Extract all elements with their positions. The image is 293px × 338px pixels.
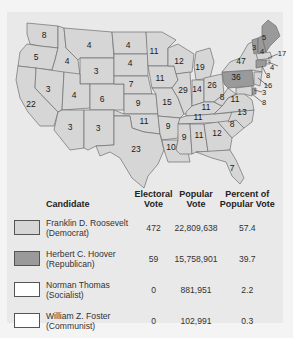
label-ok: 11	[140, 116, 149, 126]
candidate-name: Herbert C. Hoover	[46, 249, 116, 259]
label-ia: 11	[156, 73, 165, 83]
legend-swatch-republican	[14, 251, 40, 266]
label-tx: 23	[131, 144, 141, 154]
label-al: 11	[195, 130, 204, 140]
label-wy: 3	[94, 66, 99, 76]
popular-vote: 15,758,901	[173, 243, 218, 274]
legend-swatch-democrat	[14, 220, 40, 235]
candidate-name: William Z. Foster	[46, 311, 110, 321]
label-az: 3	[68, 122, 73, 132]
label-mi: 19	[195, 62, 205, 72]
label-nd: 4	[126, 40, 131, 50]
state-fl	[196, 150, 244, 184]
table-header-row: Candidate ElectoralVote PopularVote Perc…	[14, 189, 276, 212]
label-mn: 11	[150, 46, 159, 56]
state-ks	[124, 94, 158, 114]
label-nm: 3	[96, 123, 101, 133]
table-row: Herbert C. Hoover(Republican) 59 15,758,…	[14, 243, 276, 274]
label-wi: 12	[174, 56, 184, 66]
label-sd: 4	[128, 58, 133, 68]
us-electoral-map: 8 5 22 4 3 4 3 4 6 3 3 4 4 7 9 11 23 11 …	[0, 0, 293, 190]
label-ct: 8	[266, 71, 270, 80]
label-me: 5	[262, 33, 266, 42]
label-de: 3	[262, 88, 266, 97]
label-fl: 7	[230, 163, 235, 173]
candidate-party: (Democrat)	[46, 228, 89, 238]
header-popular-vote: PopularVote	[173, 189, 218, 212]
label-nh: 4	[260, 47, 264, 56]
table-row: Franklin D. Roosevelt(Democrat) 472 22,8…	[14, 212, 276, 243]
header-electoral-vote: ElectoralVote	[134, 189, 174, 212]
results-table: Candidate ElectoralVote PopularVote Perc…	[14, 189, 276, 336]
label-nv: 3	[46, 84, 51, 94]
legend-swatch-communist	[14, 313, 40, 328]
table-row: William Z. Foster(Communist) 0 102,991 0…	[14, 305, 276, 336]
label-ks: 9	[136, 98, 141, 108]
label-la: 10	[166, 142, 176, 152]
label-in: 14	[192, 84, 202, 94]
label-or: 5	[34, 52, 39, 62]
label-mt: 4	[87, 40, 92, 50]
label-id: 4	[65, 56, 70, 66]
header-candidate: Candidate	[14, 189, 134, 212]
popular-vote: 102,991	[173, 305, 218, 336]
candidate-name: Franklin D. Roosevelt	[46, 218, 128, 228]
label-ca: 22	[26, 99, 36, 109]
label-ny: 47	[236, 56, 246, 66]
label-tn: 11	[194, 112, 203, 122]
candidate-party: (Communist)	[46, 321, 95, 331]
label-mo: 15	[162, 97, 172, 107]
label-pa: 36	[231, 72, 241, 82]
state-de	[252, 88, 256, 94]
electoral-vote: 59	[134, 243, 174, 274]
label-sc: 8	[230, 119, 235, 129]
electoral-vote: 0	[134, 305, 174, 336]
label-wa: 8	[42, 30, 47, 40]
candidate-name: Norman Thomas	[46, 280, 110, 290]
popular-vote: 22,809,638	[173, 212, 218, 243]
header-percent-popular-vote: Percent ofPopular Vote	[219, 189, 276, 212]
label-ne: 7	[129, 79, 134, 89]
label-nc: 13	[237, 107, 247, 117]
label-ms: 9	[182, 132, 187, 142]
candidate-party: (Socialist)	[46, 290, 84, 300]
label-md: 8	[262, 98, 266, 107]
percent-popular-vote: 0.3	[219, 305, 276, 336]
label-wv: 8	[220, 92, 225, 102]
electoral-vote: 0	[134, 274, 174, 305]
label-ma: 17	[278, 49, 286, 58]
percent-popular-vote: 57.4	[219, 212, 276, 243]
label-vt: 3	[252, 43, 256, 52]
electoral-vote: 472	[134, 212, 174, 243]
legend-swatch-socialist	[14, 282, 40, 297]
label-ky: 11	[202, 102, 211, 112]
label-il: 29	[178, 85, 188, 95]
label-va: 11	[231, 94, 240, 104]
state-co	[90, 84, 124, 110]
label-oh: 26	[207, 80, 217, 90]
label-ar: 9	[166, 121, 171, 131]
label-co: 6	[100, 94, 105, 104]
label-ga: 12	[212, 128, 222, 138]
label-ut: 4	[72, 90, 77, 100]
candidate-party: (Republican)	[46, 259, 95, 269]
percent-popular-vote: 2.2	[219, 274, 276, 305]
state-ct	[256, 60, 266, 68]
table-row: Norman Thomas(Socialist) 0 881,951 2.2	[14, 274, 276, 305]
percent-popular-vote: 39.7	[219, 243, 276, 274]
popular-vote: 881,951	[173, 274, 218, 305]
state-nj	[254, 72, 262, 86]
label-ri: 4	[270, 63, 274, 72]
